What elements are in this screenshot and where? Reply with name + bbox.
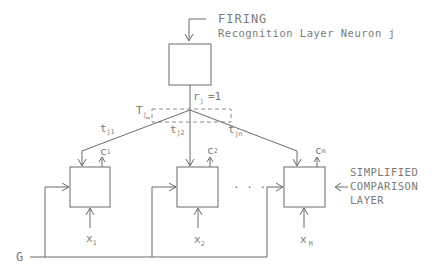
input-arrow-x2 [194, 208, 202, 228]
layer-pointer-arrow [335, 183, 348, 191]
weight-label-1: tj1 [100, 122, 115, 136]
gain-feed-node-2 [152, 183, 176, 257]
comparison-node-1-box [70, 167, 110, 207]
weight-label-2: tj2 [170, 123, 185, 137]
recognition-neuron-box [169, 44, 211, 85]
output-arrow-c2 [207, 157, 213, 167]
recognition-output-value: =1 [208, 90, 221, 103]
weight-group-label: Tj [136, 104, 147, 119]
recognition-to-node-m-line [190, 110, 297, 166]
comparison-node-m-box [284, 167, 325, 207]
output-label-c1: c1 [100, 145, 111, 158]
gain-feed-node-1 [45, 183, 69, 257]
firing-label: FIRING [218, 12, 267, 26]
input-arrow-xm [300, 208, 308, 228]
output-label-cm: cm [315, 144, 326, 157]
layer-label-line-2: COMPARISON [350, 180, 418, 192]
output-arrow-c1 [99, 157, 105, 167]
ellipsis: · · · [233, 181, 266, 194]
recognition-to-node-1-line [82, 110, 190, 166]
recognition-neuron-label: Recognition Layer Neuron j [218, 27, 395, 39]
gain-feed-node-m [267, 183, 283, 257]
input-label-x1: x1 [86, 232, 97, 247]
weight-label-n: tjn [228, 123, 243, 138]
comparison-node-2: c2 x2 [152, 144, 218, 257]
layer-label-line-1: SIMPLIFIED [350, 166, 418, 178]
output-arrow-cm [314, 157, 320, 167]
input-label-xm: xM [300, 233, 313, 248]
comparison-node-1: c1 x1 [45, 145, 111, 257]
gain-label: G [16, 250, 24, 264]
art-comparison-diagram: FIRING Recognition Layer Neuron j rj =1 … [0, 0, 442, 270]
comparison-node-2-box [177, 167, 218, 207]
layer-label-line-3: LAYER [350, 194, 384, 206]
input-arrow-x1 [86, 208, 94, 228]
output-label-c2: c2 [207, 144, 218, 157]
comparison-node-m: cm xM [267, 144, 326, 257]
firing-arrow [185, 19, 206, 41]
recognition-output-symbol: rj [193, 90, 204, 105]
input-label-x2: x2 [194, 233, 205, 248]
